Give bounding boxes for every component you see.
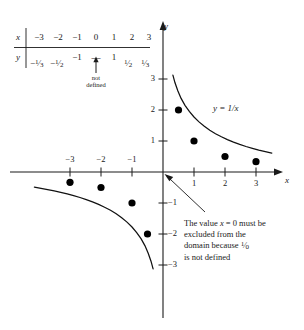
curve-right-branch (173, 75, 272, 153)
table-cell-y-whole: 1 (77, 52, 82, 62)
data-point (128, 199, 135, 206)
x-tick-label: 1 (188, 179, 200, 188)
data-point (144, 230, 151, 237)
y-tick-label: −2 (168, 229, 177, 238)
x-tick-label: −3 (63, 155, 77, 164)
table-cell-x: −1 (69, 33, 85, 42)
table-cell-y: −1⁄2 (50, 53, 63, 69)
table-cell-x: 1 (107, 33, 121, 42)
note-line-2: excluded from the (184, 229, 304, 240)
figure-canvas: x y −3 −2 −1 0 1 2 3 −1⁄3 −1⁄2 −1 — 1 1⁄… (0, 0, 304, 330)
table-cell-y: 1⁄2 (124, 53, 132, 69)
y-tick-label: 2 (145, 105, 155, 114)
table-row-label-x: x (16, 33, 20, 42)
fraction-denominator: 2 (60, 61, 64, 69)
equation-label: y = 1/x (213, 104, 239, 113)
x-tick-label: −2 (94, 155, 108, 164)
table-row-label-y: y (16, 53, 20, 62)
x-tick-label: −1 (125, 155, 139, 164)
fraction-denominator: 3 (40, 61, 44, 69)
table-cell-x: 2 (125, 33, 139, 42)
fraction-denominator: 2 (129, 61, 133, 69)
table-cell-y: −1 (69, 53, 85, 62)
curve-left-branch (34, 187, 153, 269)
y-tick-label: 1 (145, 136, 155, 145)
data-point (175, 106, 182, 113)
data-point (190, 137, 197, 144)
not-defined-line2: defined (78, 81, 114, 88)
not-defined-line1: not (78, 74, 114, 81)
table-cell-y-whole: 1 (107, 53, 121, 62)
table-cell-x: −3 (31, 33, 47, 42)
y-axis-label: y (164, 22, 168, 31)
explanatory-note: The value x = 0 must be excluded from th… (184, 218, 304, 263)
data-point (66, 179, 73, 186)
x-tick-label: 2 (219, 179, 231, 188)
table-cell-y: −1⁄3 (30, 53, 43, 69)
table-cell-y-undefined: — (89, 53, 103, 62)
table-cell-y: 1⁄3 (141, 53, 149, 69)
data-point (252, 158, 259, 165)
data-point (97, 184, 104, 191)
data-point (221, 153, 228, 160)
graph-svg (0, 0, 304, 330)
table-cell-x: 3 (142, 33, 156, 42)
fraction-denominator: 0 (246, 243, 250, 251)
y-tick-label: −1 (168, 198, 177, 207)
x-tick-label: 3 (250, 179, 262, 188)
note-line-4: is not defined (184, 252, 304, 263)
table-cell-x: −2 (50, 33, 66, 42)
not-defined-caption: not defined (78, 74, 114, 89)
y-tick-label: 3 (145, 74, 155, 83)
table-cell-x: 0 (89, 33, 103, 42)
note-line-1: The value x = 0 must be (184, 218, 304, 229)
x-axis-label: x (285, 176, 289, 185)
fraction-denominator: 3 (146, 61, 150, 69)
note-line-3: domain because 1⁄0 (184, 240, 304, 252)
y-tick-label: −3 (168, 260, 177, 269)
